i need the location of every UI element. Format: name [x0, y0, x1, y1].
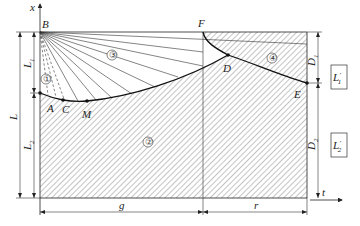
point-M	[85, 99, 89, 103]
region-1-label: ①	[43, 74, 51, 84]
region-4-label: ④	[269, 53, 277, 63]
label-C: C	[62, 103, 70, 115]
box-L1-prime-label: L′1	[332, 71, 341, 86]
label-A: A	[46, 102, 54, 114]
box-L2-prime-label: L′2	[332, 139, 342, 154]
region-3-label: ③	[109, 50, 117, 60]
label-F: F	[197, 17, 205, 29]
point-D	[226, 53, 230, 57]
svg-text:L: L	[7, 114, 19, 121]
point-C	[61, 98, 65, 102]
region-2-hatch	[40, 55, 307, 198]
label-L: L	[7, 114, 19, 121]
label-r: r	[254, 199, 259, 211]
label-E: E	[293, 88, 301, 100]
diagram: x t B F A C M D E ① ② ③ ④ L L1 L2 D1 D2 …	[0, 0, 360, 226]
label-g: g	[119, 199, 125, 211]
axis-label-x: x	[29, 1, 35, 13]
axis-label-t: t	[322, 186, 326, 198]
label-M: M	[81, 108, 92, 120]
label-B: B	[42, 18, 49, 30]
region-2-label: ②	[145, 137, 153, 147]
label-D: D	[222, 62, 231, 74]
